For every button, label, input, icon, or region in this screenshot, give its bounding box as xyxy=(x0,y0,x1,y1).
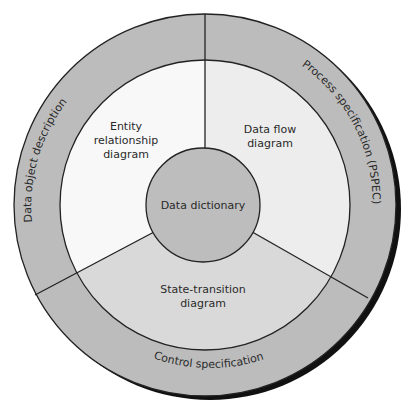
data-dictionary-label: Data dictionary xyxy=(161,199,246,212)
erd-label-line3: diagram xyxy=(103,148,149,161)
std-label-line2: diagram xyxy=(180,297,226,310)
dfd-label-line2: diagram xyxy=(247,137,293,150)
std-label-line1: State-transition xyxy=(160,283,246,296)
analysis-model-diagram: Data dictionary Entity relationship diag… xyxy=(0,0,412,410)
dfd-label-line1: Data flow xyxy=(244,123,296,136)
erd-label-line1: Entity xyxy=(110,120,143,133)
erd-label-line2: relationship xyxy=(94,134,159,147)
